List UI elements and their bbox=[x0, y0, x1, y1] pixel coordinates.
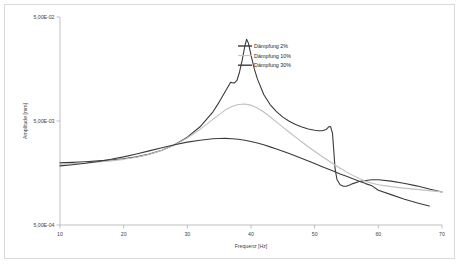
y-tick-label: 5,00E-03 bbox=[33, 118, 54, 124]
y-axis-title: Amplitude [mm] bbox=[22, 102, 28, 139]
amplitude-frequency-chart: 5,00E-025,00E-035,00E-04 10203040506070 … bbox=[0, 0, 463, 269]
y-tick-label: 5,00E-04 bbox=[33, 222, 54, 228]
x-tick-label: 40 bbox=[248, 231, 254, 237]
x-tick-label: 20 bbox=[121, 231, 127, 237]
legend-label-2: Dämpfung 10% bbox=[254, 53, 291, 59]
legend-label-1: Dämpfung 2% bbox=[254, 43, 288, 49]
x-axis-tick-labels: 10203040506070 bbox=[57, 231, 445, 237]
y-axis-tick-labels: 5,00E-025,00E-035,00E-04 bbox=[33, 14, 54, 228]
x-tick-label: 30 bbox=[184, 231, 190, 237]
y-tick-label: 5,00E-02 bbox=[33, 14, 54, 20]
x-tick-label: 70 bbox=[439, 231, 445, 237]
plot-area-background bbox=[60, 17, 442, 225]
y-axis-ticks bbox=[57, 17, 61, 225]
x-axis-title: Frequenz [Hz] bbox=[235, 243, 268, 249]
x-tick-label: 60 bbox=[375, 231, 381, 237]
x-tick-label: 50 bbox=[312, 231, 318, 237]
legend-label-3: Dämpfung 30% bbox=[254, 62, 291, 68]
x-axis-ticks bbox=[60, 225, 442, 229]
x-tick-label: 10 bbox=[57, 231, 63, 237]
